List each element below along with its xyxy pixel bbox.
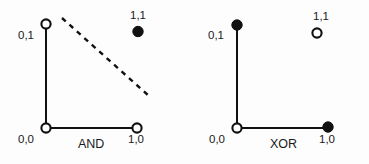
and-panel: 0,1 0,0 1,0 1,1 AND [18, 9, 149, 151]
xor-point-0-0-marker [232, 123, 241, 132]
xor-panel: 0,1 0,0 1,0 1,1 XOR [208, 10, 335, 151]
and-point-0-1-marker [41, 19, 50, 28]
and-label-0-0: 0,0 [18, 133, 34, 145]
and-point-1-0-marker [132, 123, 141, 132]
logic-gate-separability-figure: 0,1 0,0 1,0 1,1 AND 0,1 0,0 1,0 1,1 XOR [0, 0, 369, 164]
and-gate-label: AND [78, 137, 104, 151]
and-label-1-0: 1,0 [128, 133, 144, 145]
xor-label-0-1: 0,1 [208, 29, 224, 41]
xor-label-0-0: 0,0 [209, 133, 225, 145]
xor-gate-label: XOR [270, 137, 297, 151]
xor-label-1-1: 1,1 [313, 10, 329, 22]
and-label-1-1: 1,1 [130, 9, 146, 21]
xor-point-1-0-marker [323, 122, 333, 132]
and-label-0-1: 0,1 [18, 29, 34, 41]
xor-point-0-1-marker [232, 20, 242, 30]
and-point-0-0-marker [41, 123, 50, 132]
and-point-1-1-marker [133, 26, 143, 36]
xor-label-1-0: 1,0 [319, 133, 335, 145]
xor-point-1-1-marker [312, 28, 321, 37]
